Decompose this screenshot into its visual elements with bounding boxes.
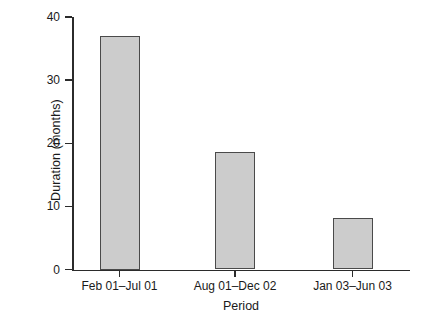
x-tick-mark bbox=[352, 271, 354, 277]
x-tick-mark bbox=[234, 271, 236, 277]
y-tick-label: 30 bbox=[20, 74, 60, 86]
x-tick-label: Jan 03–Jun 03 bbox=[278, 279, 423, 293]
y-tick-mark bbox=[65, 143, 72, 145]
y-axis-line bbox=[72, 17, 74, 271]
bar bbox=[333, 218, 373, 269]
x-axis-line bbox=[72, 270, 410, 272]
bar bbox=[215, 152, 255, 269]
y-tick-label: 40 bbox=[20, 11, 60, 23]
bar-chart: Duration (months) 010203040 Feb 01–Jul 0… bbox=[0, 0, 423, 322]
y-tick-mark bbox=[65, 269, 72, 271]
y-tick-mark bbox=[65, 206, 72, 208]
x-tick-mark bbox=[119, 271, 121, 277]
x-axis-title: Period bbox=[72, 299, 410, 313]
y-tick-mark bbox=[65, 79, 72, 81]
bar bbox=[100, 36, 140, 270]
y-tick-label: 0 bbox=[20, 264, 60, 276]
y-tick-mark bbox=[65, 16, 72, 18]
y-tick-label: 20 bbox=[20, 137, 60, 149]
y-tick-label: 10 bbox=[20, 200, 60, 212]
